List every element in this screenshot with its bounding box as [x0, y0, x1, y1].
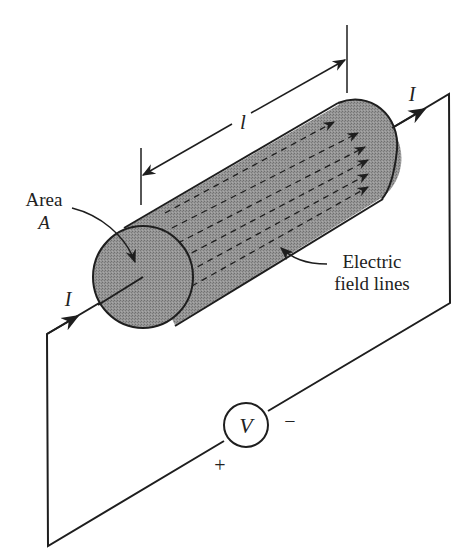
voltage-source: V	[224, 403, 268, 447]
minus-sign: −	[284, 410, 295, 432]
conductor-circuit-diagram: V Area A l I I Electric field lines − +	[0, 0, 467, 560]
area-label: Area	[26, 189, 63, 210]
field-label-line2: field lines	[334, 273, 409, 294]
area-symbol: A	[36, 212, 50, 233]
current-out-arrow	[392, 109, 425, 128]
length-label: l	[240, 110, 246, 134]
current-in-label: I	[64, 288, 73, 310]
current-in-arrow	[47, 316, 78, 334]
current-out-label: I	[408, 83, 417, 105]
plus-sign: +	[214, 454, 225, 476]
field-label-line1: Electric	[342, 251, 401, 272]
